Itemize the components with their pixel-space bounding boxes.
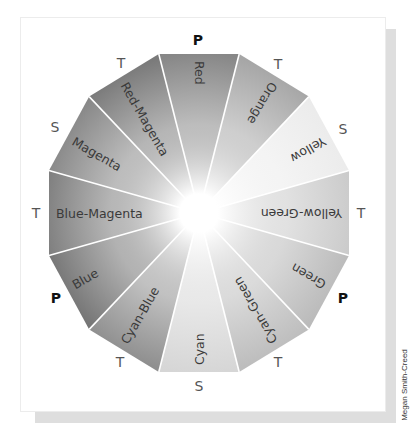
- label-yellow-green: Yellow-Green: [261, 206, 343, 221]
- marker-t: T: [273, 354, 283, 370]
- color-wheel: RedOrangeYellowYellow-GreenGreenCyan-Gre…: [0, 0, 416, 434]
- marker-p: P: [193, 32, 203, 48]
- marker-p: P: [51, 290, 61, 306]
- photo-credit: Megan Smith-Creed: [400, 349, 409, 421]
- marker-s: S: [195, 378, 204, 394]
- marker-t: T: [116, 55, 126, 71]
- marker-t: T: [115, 354, 125, 370]
- marker-t: T: [31, 205, 41, 221]
- label-blue-magenta: Blue-Magenta: [56, 206, 143, 221]
- marker-p: P: [338, 290, 348, 306]
- marker-s: S: [51, 119, 60, 135]
- marker-s: S: [339, 121, 348, 137]
- label-red: Red: [192, 61, 207, 85]
- marker-t: T: [356, 205, 366, 221]
- marker-t: T: [273, 56, 283, 72]
- label-cyan: Cyan: [192, 333, 207, 365]
